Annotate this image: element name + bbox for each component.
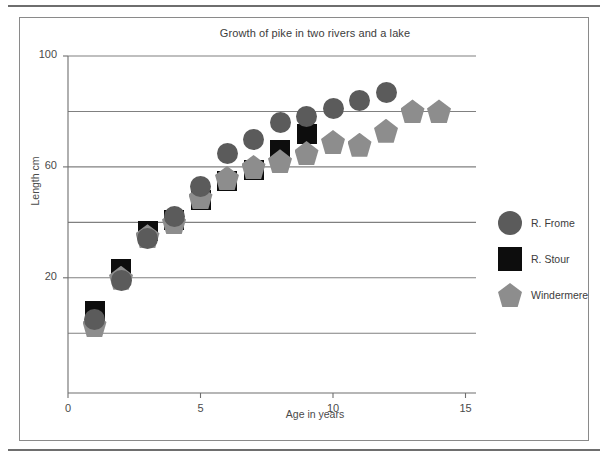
legend-item-windermere[interactable]: Windermere [498, 277, 604, 313]
square-marker-icon [498, 247, 522, 271]
data-point-marker [376, 82, 397, 103]
data-point-marker [349, 90, 370, 111]
data-point-marker [217, 143, 238, 164]
legend-item-stour[interactable]: R. Stour [498, 241, 604, 277]
data-point-marker [270, 112, 291, 133]
y-tick-label: 100 [21, 48, 57, 60]
data-point-marker [323, 98, 344, 119]
pentagon-marker-icon [498, 283, 522, 307]
data-point-marker [243, 129, 264, 150]
y-tick-label: 20 [21, 270, 57, 282]
legend-label-windermere: Windermere [531, 289, 588, 301]
y-axis-title: Length cm [29, 136, 41, 226]
legend-item-frome[interactable]: R. Frome [498, 205, 604, 241]
x-tick-label: 0 [53, 402, 83, 414]
x-tick-label: 5 [186, 402, 216, 414]
chart-legend: R. Frome R. Stour Windermere [498, 205, 604, 313]
legend-label-frome: R. Frome [531, 217, 575, 229]
circle-marker-icon [498, 211, 522, 235]
x-tick-label: 15 [451, 402, 481, 414]
chart-title: Growth of pike in two rivers and a lake [150, 27, 480, 39]
legend-label-stour: R. Stour [531, 253, 570, 265]
data-point-marker [111, 270, 132, 291]
y-tick-label: 60 [21, 159, 57, 171]
x-tick-label: 10 [318, 402, 348, 414]
data-point-marker [84, 309, 105, 330]
figure-root: Growth of pike in two rivers and a lake … [0, 0, 608, 456]
data-point-marker [190, 176, 211, 197]
data-point-marker [164, 206, 185, 227]
